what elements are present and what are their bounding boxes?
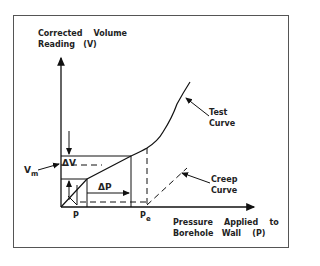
delta-v-label: ΔV	[62, 158, 76, 168]
x-axis-label-line2: Borehole Wall (P)	[173, 229, 265, 239]
p-tick-label: P	[73, 211, 79, 221]
creep-curve-label-line2: Curve	[211, 186, 237, 196]
creep-curve	[147, 168, 187, 205]
test-curve-label-line2: Curve	[209, 119, 235, 129]
x-axis-label-line1: Pressure Applied to	[173, 218, 279, 228]
creep-curve-pointer-arrow	[182, 173, 210, 183]
vm-label: Vm	[24, 165, 38, 179]
test-curve	[61, 82, 190, 207]
creep-curve-label-line1: Creep	[211, 175, 237, 185]
y-axis-label-line1: Corrected Volume	[38, 29, 127, 39]
pe-tick-label: Pe	[140, 211, 151, 224]
delta-p-label: ΔP	[98, 182, 112, 192]
vm-pointer-arrow	[38, 164, 59, 170]
test-curve-pointer-arrow	[186, 98, 209, 116]
y-axis-label-line2: Reading (V)	[38, 40, 97, 50]
test-curve-label-line1: Test	[209, 108, 227, 118]
